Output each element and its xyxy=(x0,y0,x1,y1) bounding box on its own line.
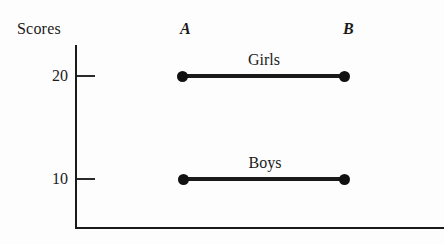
y-tick-mark-10 xyxy=(77,178,95,180)
series-marker-boys-b xyxy=(339,174,350,185)
category-label-b: B xyxy=(343,20,354,38)
y-tick-label-10-wrap: 10 xyxy=(20,170,68,188)
series-label-boys: Boys xyxy=(185,154,345,172)
scores-chart: Scores A B 20 10 Girls Boys xyxy=(0,0,444,244)
category-label-a: A xyxy=(180,20,191,38)
y-tick-label-10: 10 xyxy=(52,170,68,188)
y-tick-mark-20 xyxy=(77,75,95,77)
y-tick-label-20: 20 xyxy=(52,67,68,85)
x-axis-line xyxy=(75,227,444,229)
series-marker-girls-a xyxy=(177,71,188,82)
y-axis-line xyxy=(75,45,77,229)
series-label-girls: Girls xyxy=(184,51,344,69)
series-marker-girls-b xyxy=(339,71,350,82)
series-marker-boys-a xyxy=(178,174,189,185)
y-tick-label-20-wrap: 20 xyxy=(20,67,68,85)
y-axis-title: Scores xyxy=(17,20,61,38)
series-line-girls xyxy=(183,74,345,78)
series-line-boys xyxy=(184,177,345,181)
